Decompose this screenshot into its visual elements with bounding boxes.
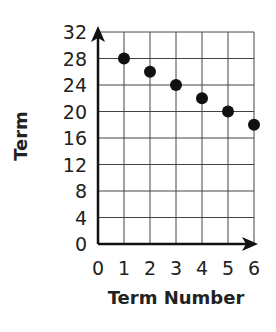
y-tick-label: 0	[75, 233, 87, 255]
y-tick-label: 8	[75, 180, 87, 202]
x-tick-label: 2	[144, 257, 156, 279]
y-axis-label: Term	[10, 111, 31, 161]
x-tick-label: 1	[118, 257, 130, 279]
data-point	[144, 66, 156, 78]
x-tick-label: 4	[196, 257, 208, 279]
data-point	[170, 79, 182, 91]
x-axis-label: Term Number	[108, 287, 245, 308]
data-points	[118, 53, 260, 131]
data-point	[222, 106, 234, 118]
y-tick-label: 16	[63, 127, 87, 149]
x-tick-label: 0	[92, 257, 104, 279]
x-tick-label: 3	[170, 257, 182, 279]
y-tick-label: 24	[63, 74, 87, 96]
y-tick-label: 4	[75, 207, 87, 229]
x-tick-labels: 0123456	[92, 257, 260, 279]
data-point	[248, 119, 260, 131]
x-tick-label: 5	[222, 257, 234, 279]
y-tick-label: 20	[63, 101, 87, 123]
data-point	[196, 92, 208, 104]
x-tick-label: 6	[248, 257, 260, 279]
data-point	[118, 53, 130, 65]
y-tick-labels: 048121620242832	[63, 21, 87, 255]
y-tick-label: 28	[63, 48, 87, 70]
y-tick-label: 12	[63, 154, 87, 176]
scatter-chart: 048121620242832 0123456 Term Term Number	[0, 0, 276, 332]
y-tick-label: 32	[63, 21, 87, 43]
